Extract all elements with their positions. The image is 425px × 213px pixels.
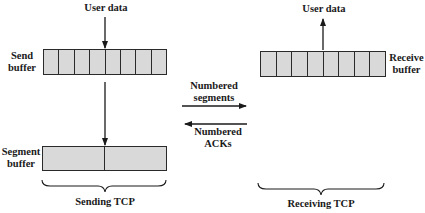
- buffer-cell: [277, 52, 293, 76]
- buffer-cell: [106, 50, 121, 74]
- send-buffer: [43, 49, 167, 75]
- numbered-segments-label: Numbered segments: [183, 80, 245, 104]
- buffer-cell: [121, 50, 136, 74]
- segment-buffer-label-line1: Segment: [0, 146, 42, 158]
- buffer-cell: [324, 52, 340, 76]
- diagram-lines: [0, 0, 425, 213]
- receiving-tcp-label: Receiving TCP: [276, 198, 366, 210]
- numbered-acks-label: Numbered ACKs: [187, 126, 249, 150]
- sending-user-data-label: User data: [78, 2, 134, 14]
- buffer-cell: [308, 52, 324, 76]
- receive-buffer-label-line2: buffer: [388, 64, 425, 76]
- segment-buffer-label: Segment buffer: [0, 146, 42, 170]
- buffer-cell: [75, 50, 90, 74]
- buffer-cell: [152, 50, 166, 74]
- buffer-cell: [43, 147, 105, 170]
- send-buffer-label: Send buffer: [4, 50, 40, 74]
- buffer-cell: [90, 50, 105, 74]
- numbered-segments-line2: segments: [183, 92, 245, 104]
- receiving-user-data-label: User data: [296, 3, 352, 15]
- buffer-cell: [292, 52, 308, 76]
- buffer-cell: [339, 52, 355, 76]
- numbered-acks-line1: Numbered: [187, 126, 249, 138]
- segment-buffer: [42, 146, 167, 171]
- buffer-cell: [355, 52, 371, 76]
- send-buffer-label-line1: Send: [4, 50, 40, 62]
- buffer-cell: [261, 52, 277, 76]
- numbered-acks-line2: ACKs: [187, 138, 249, 150]
- receive-buffer: [260, 51, 386, 77]
- sending-tcp-label: Sending TCP: [65, 196, 145, 208]
- buffer-cell: [105, 147, 166, 170]
- buffer-cell: [370, 52, 385, 76]
- segment-buffer-label-line2: buffer: [0, 158, 42, 170]
- sending-tcp-brace-icon: [42, 180, 166, 192]
- buffer-cell: [44, 50, 59, 74]
- receive-buffer-label: Receive buffer: [388, 52, 425, 76]
- buffer-cell: [136, 50, 151, 74]
- numbered-segments-line1: Numbered: [183, 80, 245, 92]
- receiving-tcp-brace-icon: [258, 183, 384, 195]
- buffer-cell: [59, 50, 74, 74]
- receive-buffer-label-line1: Receive: [388, 52, 425, 64]
- send-buffer-label-line2: buffer: [4, 62, 40, 74]
